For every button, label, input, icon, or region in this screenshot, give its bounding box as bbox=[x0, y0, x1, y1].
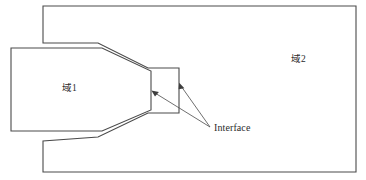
interface-leader-line-right bbox=[181, 86, 210, 127]
interface-label: Interface bbox=[214, 123, 250, 133]
diagram-canvas: 域1 域2 Interface bbox=[0, 0, 366, 180]
domain1-label: 域1 bbox=[62, 84, 77, 94]
interface-arrow-head-left bbox=[151, 91, 159, 97]
interface-arrow-head-right bbox=[179, 83, 185, 90]
domain1-inner-region-outline bbox=[11, 48, 151, 131]
domain2-outer-region-outline bbox=[43, 6, 356, 172]
interface-leader-line-left bbox=[155, 93, 210, 127]
domain2-label: 域2 bbox=[291, 55, 306, 65]
diagram-vector-layer bbox=[0, 0, 366, 180]
